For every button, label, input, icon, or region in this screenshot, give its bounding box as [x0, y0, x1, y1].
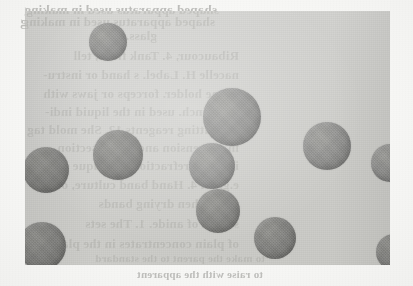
bleed-text-line: to make the parent to the standard [95, 252, 265, 264]
particle [254, 217, 296, 259]
particle [25, 147, 69, 193]
photograph-plate: shaped apparatus used in makingshaped ap… [25, 11, 390, 265]
particle [371, 144, 390, 182]
scanned-page: shaped apparatus used in makingshaped ap… [0, 0, 413, 286]
particle [93, 130, 143, 180]
bleed-text-line: shaped apparatus used in making [26, 11, 219, 18]
bleed-text-line: of plain concentrates in the plates [46, 236, 239, 252]
particle [376, 234, 390, 265]
particle [25, 222, 66, 265]
bleed-text-line: nacelle H. Label. s hand or instru- [43, 67, 239, 83]
particle [189, 143, 235, 189]
particle [303, 122, 351, 170]
particle [89, 23, 127, 61]
bleed-text-line: glass. [126, 28, 157, 44]
particle [203, 88, 261, 146]
particle [196, 189, 240, 233]
